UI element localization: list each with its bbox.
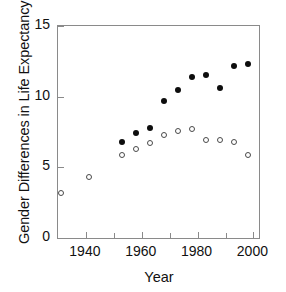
- x-axis-minor-tick: [170, 233, 171, 239]
- x-axis-tick: [253, 232, 254, 239]
- data-point: [189, 74, 195, 80]
- data-point: [245, 61, 251, 67]
- data-point: [161, 98, 167, 104]
- data-point: [119, 152, 125, 158]
- plot-area: [57, 25, 260, 239]
- y-axis-title: Gender Differences in Life Expectancy: [16, 4, 32, 244]
- data-point: [175, 87, 181, 93]
- x-axis-tick-label: 1940: [62, 243, 108, 259]
- data-point: [133, 130, 139, 136]
- x-axis-title: Year: [57, 269, 261, 285]
- data-point: [231, 139, 237, 145]
- data-point: [245, 152, 251, 158]
- y-axis-tick: [57, 26, 64, 27]
- y-axis-tick-label: 5: [24, 157, 50, 173]
- x-axis-tick-label: 2000: [229, 243, 275, 259]
- data-point: [133, 146, 139, 152]
- y-axis-tick: [57, 167, 64, 168]
- data-point: [217, 85, 223, 91]
- y-axis-tick: [57, 238, 64, 239]
- data-point: [161, 132, 167, 138]
- scatter-chart-figure: Gender Differences in Life Expectancy Ye…: [0, 0, 286, 292]
- data-point: [203, 137, 209, 143]
- data-point: [119, 139, 125, 145]
- x-axis-minor-tick: [226, 233, 227, 239]
- x-axis-tick-label: 1960: [118, 243, 164, 259]
- data-point: [58, 190, 64, 196]
- data-point: [147, 140, 153, 146]
- y-axis-tick-label: 0: [24, 228, 50, 244]
- data-point: [86, 174, 92, 180]
- data-point: [231, 63, 237, 69]
- data-point: [203, 72, 209, 78]
- x-axis-minor-tick: [114, 233, 115, 239]
- x-axis-tick: [142, 232, 143, 239]
- x-axis-tick: [198, 232, 199, 239]
- x-axis-tick-label: 1980: [174, 243, 220, 259]
- data-point: [217, 137, 223, 143]
- data-point: [189, 126, 195, 132]
- y-axis-tick: [57, 97, 64, 98]
- data-point: [175, 128, 181, 134]
- y-axis-tick-label: 15: [24, 16, 50, 32]
- data-point: [147, 125, 153, 131]
- y-axis-tick-label: 10: [24, 87, 50, 103]
- x-axis-tick: [86, 232, 87, 239]
